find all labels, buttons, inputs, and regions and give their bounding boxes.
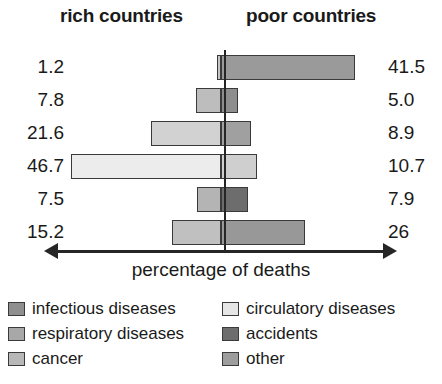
chart-row: 1.241.5 — [0, 52, 442, 85]
legend-label: accidents — [246, 325, 318, 342]
legend-item: accidents — [222, 321, 395, 346]
legend-swatch-icon — [222, 352, 239, 366]
center-axis-line — [224, 50, 226, 252]
legend-swatch-icon — [8, 327, 25, 341]
legend-column-right: circulatory diseasesaccidentsother — [222, 296, 395, 371]
heading-rich-countries: rich countries — [60, 5, 183, 27]
axis-caption: percentage of deaths — [0, 259, 442, 281]
legend-column-left: infectious diseasesrespiratory diseasesc… — [8, 296, 184, 371]
chart-row: 21.68.9 — [0, 118, 442, 151]
bar-left — [197, 187, 221, 212]
legend-swatch-icon — [8, 352, 25, 366]
bar-left — [151, 121, 221, 146]
legend: infectious diseasesrespiratory diseasesc… — [0, 296, 442, 384]
chart-row: 7.57.9 — [0, 184, 442, 217]
value-label-left: 7.5 — [38, 188, 64, 210]
chart-row: 7.85.0 — [0, 85, 442, 118]
chart-row: 15.226 — [0, 217, 442, 250]
diverging-bar-chart: rich countries poor countries 1.241.57.8… — [0, 0, 442, 384]
value-label-left: 7.8 — [38, 89, 64, 111]
bar-right — [221, 220, 305, 245]
bar-left — [172, 220, 221, 245]
bar-right — [221, 55, 355, 80]
bar-left — [71, 154, 221, 179]
heading-poor-countries: poor countries — [246, 5, 376, 27]
arrow-right-icon — [383, 243, 397, 259]
legend-label: circulatory diseases — [246, 300, 395, 317]
value-label-left: 15.2 — [27, 221, 64, 243]
legend-item: other — [222, 346, 395, 371]
legend-item: circulatory diseases — [222, 296, 395, 321]
value-label-left: 46.7 — [27, 155, 64, 177]
legend-item: cancer — [8, 346, 184, 371]
value-label-right: 8.9 — [388, 122, 414, 144]
legend-item: respiratory diseases — [8, 321, 184, 346]
legend-label: other — [246, 350, 285, 367]
bar-left — [196, 88, 221, 113]
legend-label: cancer — [32, 350, 83, 367]
value-label-right: 7.9 — [388, 188, 414, 210]
legend-swatch-icon — [8, 302, 25, 316]
value-label-left: 21.6 — [27, 122, 64, 144]
chart-row: 46.710.7 — [0, 151, 442, 184]
horizontal-axis-line — [55, 250, 385, 253]
bar-right — [221, 154, 257, 179]
legend-item: infectious diseases — [8, 296, 184, 321]
legend-label: respiratory diseases — [32, 325, 184, 342]
legend-swatch-icon — [222, 302, 239, 316]
legend-swatch-icon — [222, 327, 239, 341]
value-label-right: 26 — [388, 221, 409, 243]
value-label-right: 41.5 — [388, 56, 425, 78]
value-label-left: 1.2 — [38, 56, 64, 78]
arrow-left-icon — [44, 243, 58, 259]
value-label-right: 5.0 — [388, 89, 414, 111]
value-label-right: 10.7 — [388, 155, 425, 177]
legend-label: infectious diseases — [32, 300, 176, 317]
plot-area: 1.241.57.85.021.68.946.710.77.57.915.226 — [0, 52, 442, 250]
